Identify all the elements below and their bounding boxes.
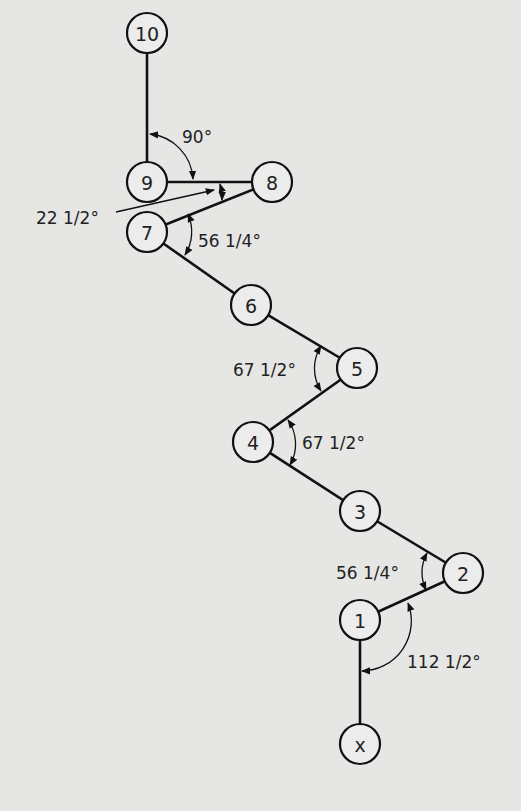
node-5: 5 xyxy=(337,348,377,388)
node-label: 10 xyxy=(135,23,159,45)
node-label: 4 xyxy=(247,432,259,454)
node-10: 10 xyxy=(127,13,167,53)
angle-arc-67-5-upper xyxy=(314,346,321,391)
angle-label-56-25-bottom: 56 1/4° xyxy=(336,563,399,583)
node-label: 3 xyxy=(354,501,366,523)
node-label: 9 xyxy=(141,172,153,194)
node-label: 6 xyxy=(245,295,257,317)
angle-label-90: 90° xyxy=(182,127,212,147)
node-x: x xyxy=(340,724,380,764)
angle-arc-56-25-top xyxy=(185,214,192,255)
node-label: 5 xyxy=(351,358,363,380)
node-label: x xyxy=(354,734,365,756)
node-label: 1 xyxy=(354,610,366,632)
node-6: 6 xyxy=(231,285,271,325)
angle-label-112-5: 112 1/2° xyxy=(407,652,481,672)
angle-arc-22-5 xyxy=(220,184,222,200)
node-7: 7 xyxy=(127,212,167,252)
node-9: 9 xyxy=(127,162,167,202)
node-label: 2 xyxy=(457,563,469,585)
angle-labels: 90° 22 1/2° 56 1/4° 67 1/2° 67 1/2° 56 1… xyxy=(36,127,481,672)
angle-label-67-5-upper: 67 1/2° xyxy=(233,360,296,380)
angle-label-67-5-lower: 67 1/2° xyxy=(302,433,365,453)
node-label: 8 xyxy=(266,172,278,194)
angle-arc-56-25-bottom xyxy=(422,553,427,590)
angle-label-56-25-top: 56 1/4° xyxy=(198,231,261,251)
node-1: 1 xyxy=(340,600,380,640)
node-4: 4 xyxy=(233,422,273,462)
node-2: 2 xyxy=(443,553,483,593)
angle-arc-67-5-lower xyxy=(288,420,296,465)
node-label: 7 xyxy=(141,222,153,244)
angle-arcs xyxy=(116,134,427,671)
angle-label-22-5: 22 1/2° xyxy=(36,208,99,228)
angle-path-diagram: 90° 22 1/2° 56 1/4° 67 1/2° 67 1/2° 56 1… xyxy=(0,0,521,811)
node-8: 8 xyxy=(252,162,292,202)
node-3: 3 xyxy=(340,491,380,531)
